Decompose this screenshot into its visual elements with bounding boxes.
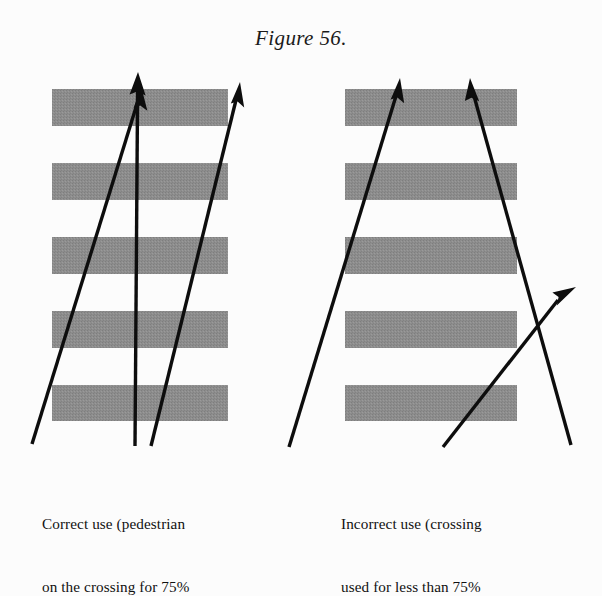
correct-use-caption: Correct use (pedestrian on the crossing … xyxy=(42,471,292,596)
crossing-panel-correct xyxy=(32,72,244,446)
crossing-stripes-left xyxy=(52,89,228,421)
caption-line: used for less than 75% xyxy=(341,576,586,596)
crossing-stripes-right xyxy=(345,89,517,421)
crossing-panel-incorrect xyxy=(289,78,576,447)
incorrect-use-caption: Incorrect use (crossing used for less th… xyxy=(341,471,586,596)
caption-line: Incorrect use (crossing xyxy=(341,513,586,534)
figure-page: Figure 56. xyxy=(0,0,602,596)
caption-line: Correct use (pedestrian xyxy=(42,513,292,534)
caption-line: on the crossing for 75% xyxy=(42,576,292,596)
